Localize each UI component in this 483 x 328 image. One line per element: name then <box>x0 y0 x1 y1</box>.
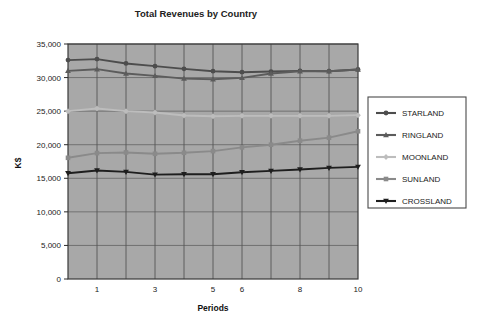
data-point-circle <box>124 61 129 66</box>
data-point-square <box>211 149 216 154</box>
data-point-circle <box>211 69 216 74</box>
chart-container: Total Revenues by Country 05,00010,00015… <box>0 0 483 328</box>
data-point-square <box>327 135 332 140</box>
data-point-square <box>240 145 245 150</box>
data-point-square <box>269 142 274 147</box>
revenues-line-chart: Total Revenues by Country 05,00010,00015… <box>0 0 483 328</box>
legend-item-label: MOONLAND <box>402 153 448 162</box>
y-tick-label: 20,000 <box>37 141 62 150</box>
legend-item-label: CROSSLAND <box>402 197 452 206</box>
data-point-square <box>182 150 187 155</box>
x-tick-label: 5 <box>211 285 216 294</box>
data-point-circle <box>95 57 100 62</box>
y-tick-label: 0 <box>57 275 62 284</box>
data-point-square <box>124 150 129 155</box>
data-point-square <box>153 151 158 156</box>
y-tick-label: 15,000 <box>37 174 62 183</box>
data-point-square <box>95 151 100 156</box>
data-point-circle <box>240 70 245 75</box>
data-point-square <box>66 156 71 161</box>
data-point-circle <box>182 66 187 71</box>
legend-item-label: RINGLAND <box>402 131 444 140</box>
y-tick-label: 25,000 <box>37 107 62 116</box>
legend-item-label: SUNLAND <box>402 175 440 184</box>
y-tick-label: 10,000 <box>37 208 62 217</box>
data-point-square <box>356 129 361 134</box>
x-tick-label: 1 <box>95 285 100 294</box>
y-tick-label: 5,000 <box>41 241 62 250</box>
x-tick-label: 3 <box>153 285 158 294</box>
x-tick-label: 10 <box>354 285 363 294</box>
data-point-square <box>384 177 389 182</box>
x-tick-label: 8 <box>298 285 303 294</box>
data-point-circle <box>66 58 71 63</box>
data-point-square <box>298 138 303 143</box>
data-point-circle <box>384 111 389 116</box>
chart-title: Total Revenues by Country <box>135 8 258 19</box>
x-tick-label: 6 <box>240 285 245 294</box>
y-axis-title: K$ <box>13 157 23 168</box>
data-point-circle <box>153 64 158 69</box>
legend-item-label: STARLAND <box>402 109 444 118</box>
chart-legend: STARLANDRINGLANDMOONLANDSUNLANDCROSSLAND <box>368 97 466 208</box>
y-tick-label: 30,000 <box>37 74 62 83</box>
y-tick-label: 35,000 <box>37 40 62 49</box>
x-axis-title: Periods <box>197 303 228 313</box>
